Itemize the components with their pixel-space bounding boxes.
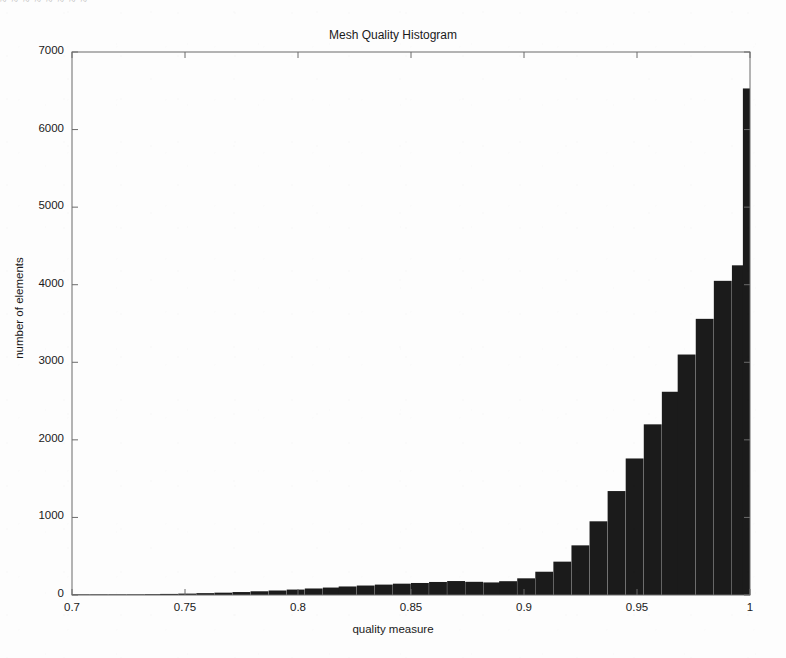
histogram-bar [305, 588, 323, 595]
histogram-bar [287, 590, 305, 595]
scanned-page: ~ ~ ~ ~ ~ ~ ~ ~ Mesh Quality Histogram q… [0, 0, 786, 658]
histogram-bar [553, 562, 571, 595]
histogram-bar [323, 588, 341, 595]
plot-area [0, 0, 786, 658]
x-tick-label: 0.85 [381, 601, 441, 613]
histogram-bar [499, 581, 517, 595]
y-tick-label: 4000 [18, 277, 64, 289]
histogram-bar [375, 585, 393, 595]
mesh-quality-histogram-chart: Mesh Quality Histogram quality measure n… [0, 0, 786, 658]
histogram-bar [411, 583, 429, 595]
histogram-bar [339, 586, 357, 595]
x-tick-label: 0.9 [494, 601, 554, 613]
x-tick-label: 0.75 [155, 601, 215, 613]
y-tick-label: 0 [18, 587, 64, 599]
histogram-bar [535, 572, 553, 595]
y-tick-label: 6000 [18, 122, 64, 134]
y-tick-label: 2000 [18, 432, 64, 444]
histogram-bar [696, 319, 714, 595]
x-tick-label: 0.7 [42, 601, 102, 613]
histogram-bar [714, 281, 732, 595]
histogram-bar [465, 582, 483, 595]
histogram-bar [626, 458, 644, 595]
y-tick-label: 3000 [18, 354, 64, 366]
histogram-bar [644, 424, 662, 595]
histogram-bar [571, 545, 589, 595]
histogram-bar [517, 578, 535, 595]
histogram-bars [72, 88, 750, 595]
histogram-bar [447, 581, 465, 595]
histogram-bar [357, 586, 375, 595]
histogram-bar [662, 392, 680, 595]
y-tick-label: 7000 [18, 44, 64, 56]
x-tick-label: 0.95 [607, 601, 667, 613]
histogram-bar-spike [743, 88, 750, 595]
histogram-bar [429, 582, 447, 595]
histogram-bar [393, 584, 411, 595]
histogram-bar [608, 491, 626, 595]
y-tick-label: 5000 [18, 199, 64, 211]
histogram-bar [251, 591, 269, 595]
x-tick-label: 1 [720, 601, 780, 613]
histogram-bar [483, 582, 501, 595]
histogram-bar [269, 591, 287, 595]
x-tick-label: 0.8 [268, 601, 328, 613]
y-tick-label: 1000 [18, 509, 64, 521]
histogram-bar [678, 355, 696, 595]
histogram-bar [590, 521, 608, 595]
